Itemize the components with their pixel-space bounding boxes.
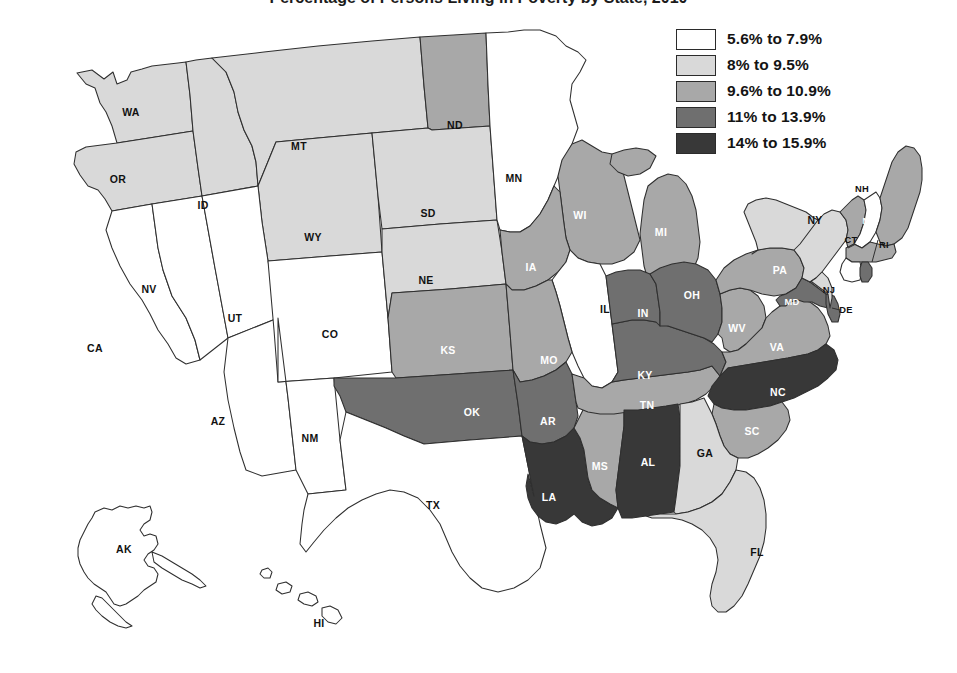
state-label-VA: VA: [770, 341, 785, 353]
state-label-AZ: AZ: [211, 415, 226, 427]
legend-label-2: 9.6% to 10.9%: [727, 83, 831, 99]
state-label-AR: AR: [540, 415, 556, 427]
state-label-NY: NY: [807, 214, 822, 226]
state-label-OH: OH: [684, 289, 700, 301]
state-KS[interactable]: [388, 284, 513, 378]
state-label-UT: UT: [228, 312, 243, 324]
state-WA[interactable]: [77, 62, 193, 143]
legend-label-1: 8% to 9.5%: [727, 57, 809, 73]
state-label-KY: KY: [637, 369, 652, 381]
state-label-NJ: NJ: [823, 285, 835, 295]
legend-label-4: 14% to 15.9%: [727, 135, 826, 151]
state-label-NC: NC: [770, 386, 786, 398]
state-label-NV: NV: [141, 283, 156, 295]
state-label-MO: MO: [540, 354, 558, 366]
legend-swatch-0: [676, 29, 716, 50]
legend-swatch-2: [676, 81, 716, 102]
state-HI[interactable]: [260, 568, 342, 624]
state-ME[interactable]: [876, 146, 922, 246]
state-AK[interactable]: [78, 506, 206, 628]
legend-swatch-1: [676, 55, 716, 76]
state-label-TX: TX: [426, 499, 440, 511]
legend-item-0[interactable]: 5.6% to 7.9%: [676, 26, 831, 52]
state-CT[interactable]: [840, 258, 862, 282]
state-label-HI: HI: [313, 617, 324, 629]
state-label-ME: ME: [872, 146, 888, 158]
state-label-AL: AL: [641, 456, 656, 468]
state-label-CA: CA: [87, 342, 103, 354]
state-label-IN: IN: [637, 307, 648, 319]
legend-item-2[interactable]: 9.6% to 10.9%: [676, 78, 831, 104]
state-CO[interactable]: [268, 252, 392, 382]
state-label-PA: PA: [773, 264, 788, 276]
state-RI[interactable]: [860, 262, 872, 282]
state-label-IL: IL: [600, 303, 610, 315]
state-label-WI: WI: [573, 209, 586, 221]
state-PA[interactable]: [716, 248, 804, 296]
state-label-NM: NM: [302, 432, 319, 444]
state-label-IA: IA: [525, 261, 536, 273]
state-IN[interactable]: [606, 270, 660, 326]
state-label-KS: KS: [440, 344, 455, 356]
state-label-WY: WY: [304, 231, 322, 243]
state-label-NE: NE: [418, 274, 433, 286]
legend-swatch-3: [676, 107, 716, 128]
state-label-RI: RI: [879, 240, 889, 250]
state-label-AK: AK: [116, 543, 132, 555]
state-label-SC: SC: [744, 425, 759, 437]
map-legend: 5.6% to 7.9% 8% to 9.5% 9.6% to 10.9% 11…: [676, 26, 831, 156]
state-ND[interactable]: [420, 33, 490, 130]
state-label-CT: CT: [845, 235, 858, 245]
state-label-OK: OK: [464, 406, 480, 418]
legend-label-0: 5.6% to 7.9%: [727, 31, 822, 47]
state-label-GA: GA: [697, 447, 713, 459]
state-label-LA: LA: [542, 491, 557, 503]
map-page: Percentage of Persons Living in Poverty …: [0, 0, 957, 673]
state-label-NH: NH: [855, 184, 869, 194]
state-label-TN: TN: [640, 399, 655, 411]
state-label-CO: CO: [322, 328, 338, 340]
page-title: Percentage of Persons Living in Poverty …: [0, 0, 957, 6]
legend-swatch-4: [676, 133, 716, 154]
legend-item-1[interactable]: 8% to 9.5%: [676, 52, 831, 78]
legend-label-3: 11% to 13.9%: [727, 109, 826, 125]
state-label-MD: MD: [784, 297, 799, 307]
state-label-ND: ND: [447, 119, 463, 131]
page-title-text: Percentage of Persons Living in Poverty …: [0, 0, 957, 6]
state-label-MS: MS: [592, 460, 608, 472]
state-label-MI: MI: [655, 226, 667, 238]
legend-item-3[interactable]: 11% to 13.9%: [676, 104, 831, 130]
state-label-SD: SD: [420, 207, 435, 219]
state-label-ID: ID: [197, 199, 208, 211]
state-label-WA: WA: [122, 106, 140, 118]
state-label-MA: MA: [862, 216, 877, 226]
state-label-OR: OR: [110, 173, 126, 185]
state-label-DE: DE: [839, 305, 853, 315]
state-label-FL: FL: [750, 546, 764, 558]
state-label-MT: MT: [291, 140, 307, 152]
state-label-VT: VT: [834, 174, 847, 184]
state-label-WV: WV: [728, 322, 746, 334]
state-label-MN: MN: [506, 172, 523, 184]
legend-item-4[interactable]: 14% to 15.9%: [676, 130, 831, 156]
